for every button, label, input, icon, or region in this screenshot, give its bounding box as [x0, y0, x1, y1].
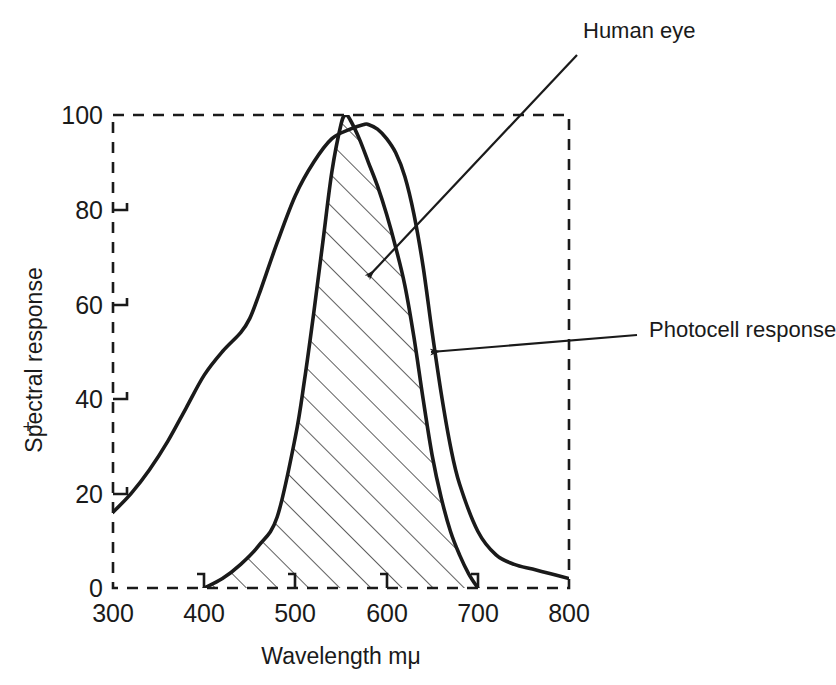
y-tick-label-60: 60: [75, 291, 103, 319]
x-tick-label-700: 700: [457, 599, 499, 627]
annotation-photocell-response-label: Photocell response: [649, 317, 836, 342]
y-tick-label-20: 20: [75, 480, 103, 508]
x-tick-labels: 300 400 500 600 700 800: [92, 599, 590, 627]
annotation-human-eye-label: Human eye: [583, 18, 696, 43]
y-axis-title-plus: +: [22, 416, 33, 437]
y-tick-label-0: 0: [89, 574, 103, 602]
x-tick-label-400: 400: [183, 599, 225, 627]
annotation-human-eye-leader-arrow: [368, 55, 577, 277]
y-tick-label-80: 80: [75, 196, 103, 224]
chart-canvas: 0 20 40 60 80 100 300 400 500 600 700 80…: [0, 0, 836, 685]
y-axis-ticks: [113, 203, 127, 494]
x-tick-label-300: 300: [92, 599, 134, 627]
x-axis-title: Wavelength mμ: [261, 643, 420, 669]
x-tick-label-800: 800: [548, 599, 590, 627]
y-tick-label-40: 40: [75, 385, 103, 413]
annotation-photocell-response: Photocell response: [431, 317, 836, 352]
y-tick-label-100: 100: [61, 101, 103, 129]
x-tick-label-500: 500: [274, 599, 316, 627]
x-tick-label-600: 600: [366, 599, 408, 627]
y-tick-labels: 0 20 40 60 80 100: [61, 101, 103, 602]
annotation-photocell-response-leader-arrow: [431, 335, 637, 352]
spectral-response-chart: 0 20 40 60 80 100 300 400 500 600 700 80…: [0, 0, 836, 685]
